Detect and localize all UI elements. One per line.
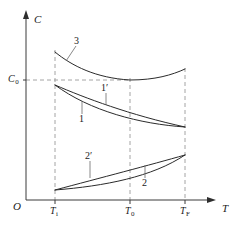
curve-label-3: 3 [74, 36, 79, 46]
leader-line-3 [66, 46, 76, 61]
curve-label-1-prime: 1′ [101, 83, 108, 93]
curve-label-2: 2 [142, 178, 147, 188]
x-tick-label-TF-main: T [180, 205, 186, 216]
x-tick-label-TF: TF [180, 206, 189, 216]
x-tick-label-Ti-sub: i [56, 210, 58, 218]
axes [23, 10, 216, 203]
curve-1 [55, 85, 185, 127]
tick-marks [23, 80, 185, 204]
data-curves [55, 52, 185, 190]
x-tick-label-T0-main: T [125, 205, 131, 216]
curve-label-1: 1 [79, 114, 84, 124]
x-tick-label-T0: T0 [125, 206, 134, 216]
x-axis-arrow-icon [207, 197, 216, 203]
curve-label-2-prime: 2′ [85, 151, 92, 161]
figure-container: C T O C0 Ti T0 TF 3 1′ 1 2′ 2 [0, 0, 232, 229]
y-axis-arrow-icon [23, 10, 29, 19]
y-tick-label-C0-main: C [8, 73, 15, 84]
origin-label: O [13, 201, 21, 212]
y-axis-label: C [34, 14, 41, 25]
curve-3 [55, 52, 185, 80]
y-tick-label-C0-sub: 0 [15, 78, 19, 86]
curve-1-prime [55, 85, 185, 127]
x-tick-label-Ti: Ti [50, 206, 58, 216]
x-axis-label: T [222, 203, 228, 214]
plot-canvas [0, 0, 232, 229]
curve-2-prime [55, 155, 185, 190]
annotation-leaders [66, 46, 145, 178]
x-tick-label-TF-sub: F [186, 210, 190, 218]
y-tick-label-C0: C0 [8, 74, 18, 84]
x-tick-label-T0-sub: 0 [131, 210, 135, 218]
x-tick-label-Ti-main: T [50, 205, 56, 216]
